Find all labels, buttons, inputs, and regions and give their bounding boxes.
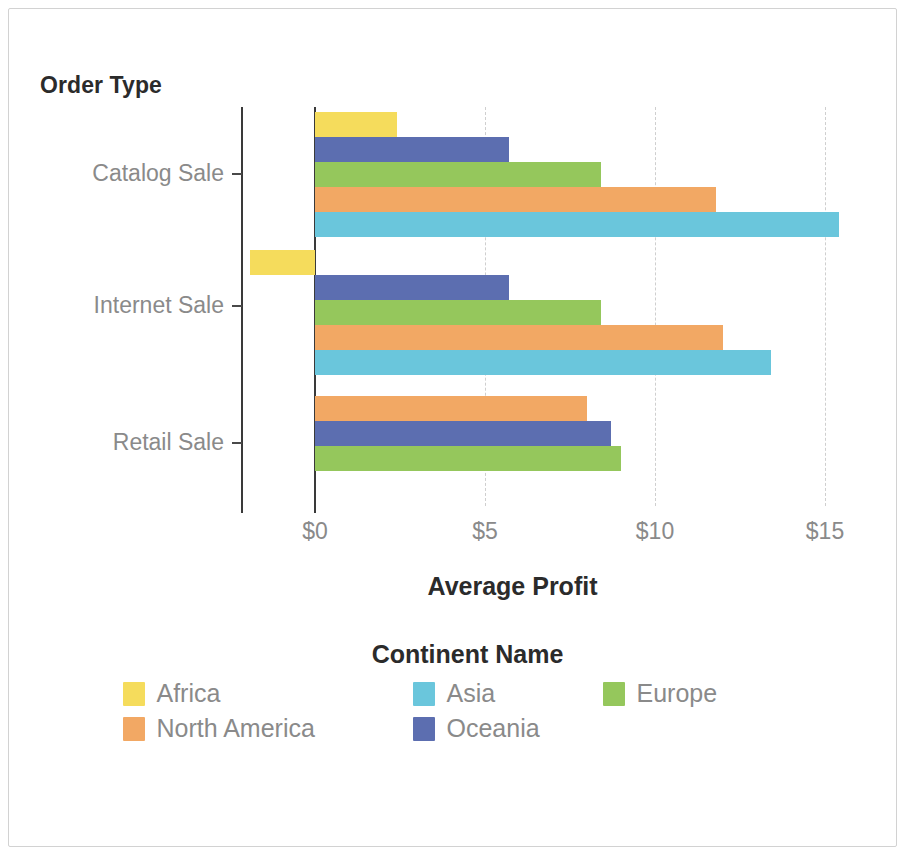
gridline-10 [655,107,657,506]
legend-item-label: Africa [157,679,221,708]
legend-item-asia[interactable]: Asia [413,679,603,708]
bar[interactable] [315,137,509,162]
legend-item-north-america[interactable]: North America [123,714,413,743]
bar[interactable] [315,325,723,350]
plot-area: Order Type Catalog SaleInternet SaleReta… [0,0,905,855]
bar[interactable] [315,187,716,212]
x-axis-title: Average Profit [0,572,905,601]
y-tick-label-retail-sale: Retail Sale [113,429,224,456]
legend-swatch-icon [603,682,625,706]
bar[interactable] [315,300,601,325]
bar[interactable] [315,421,611,446]
legend-item-africa[interactable]: Africa [123,679,413,708]
legend-item-europe[interactable]: Europe [603,679,803,708]
y-axis-title: Order Type [40,72,162,99]
legend: Continent Name AfricaAsiaEuropeNorth Ame… [0,640,905,743]
y-axis-spine [241,107,243,513]
chart-card: Order Type Catalog SaleInternet SaleReta… [0,0,905,855]
legend-title: Continent Name [0,640,905,669]
bar[interactable] [315,396,587,421]
legend-item-oceania[interactable]: Oceania [413,714,603,743]
bar[interactable] [315,350,771,375]
legend-swatch-icon [413,682,435,706]
legend-swatch-icon [123,717,145,741]
y-tick-mark [232,305,242,307]
legend-item-label: Asia [447,679,496,708]
bar[interactable] [315,162,601,187]
x-tick-label: $5 [472,518,498,545]
legend-swatch-icon [123,682,145,706]
x-tick-mark-0 [314,500,316,513]
legend-items: AfricaAsiaEuropeNorth AmericaOceania [0,679,905,743]
bar[interactable] [315,112,397,137]
bar[interactable] [250,250,315,275]
y-tick-label-internet-sale: Internet Sale [94,292,224,319]
legend-item-label: North America [157,714,315,743]
legend-swatch-icon [413,717,435,741]
bar[interactable] [315,212,839,237]
bar[interactable] [315,446,621,471]
bar[interactable] [315,275,509,300]
y-tick-label-catalog-sale: Catalog Sale [92,160,224,187]
legend-item-label: Europe [637,679,718,708]
legend-item-label: Oceania [447,714,540,743]
x-tick-label: $0 [302,518,328,545]
x-tick-label: $15 [806,518,844,545]
y-tick-mark [232,442,242,444]
x-tick-label: $10 [636,518,674,545]
gridline-15 [825,107,827,506]
y-tick-mark [232,173,242,175]
